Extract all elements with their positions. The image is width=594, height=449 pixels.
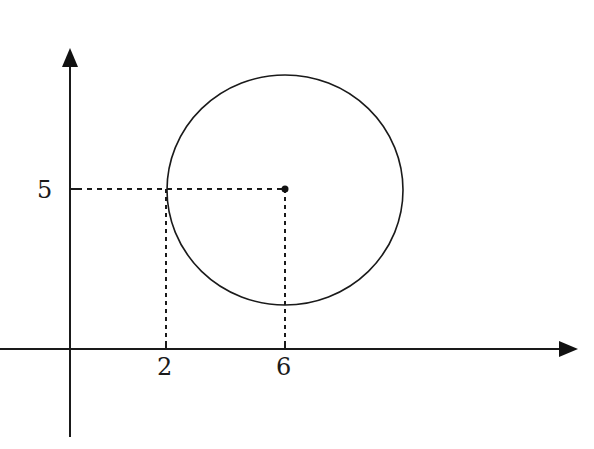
- center-point: [282, 186, 289, 193]
- y-axis-arrow-icon: [62, 48, 78, 67]
- x-label-6: 6: [276, 353, 291, 381]
- y-label-5: 5: [37, 176, 52, 204]
- x-axis-arrow-icon: [559, 341, 578, 357]
- coordinate-diagram: 5 2 6: [0, 0, 594, 449]
- x-label-2: 2: [157, 353, 172, 381]
